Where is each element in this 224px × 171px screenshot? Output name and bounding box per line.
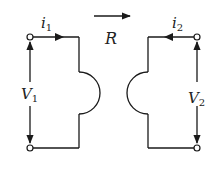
right-top-terminal bbox=[194, 34, 200, 40]
right-port: i2 V2 bbox=[127, 14, 205, 151]
right-current-label: i2 bbox=[172, 14, 183, 33]
left-bottom-terminal bbox=[27, 145, 33, 151]
right-bottom-terminal bbox=[194, 145, 200, 151]
left-semicircle-contact bbox=[79, 72, 100, 114]
right-current-arrowhead bbox=[164, 33, 173, 41]
left-current-label: i1 bbox=[41, 14, 52, 33]
operator: R bbox=[94, 16, 130, 48]
two-port-diagram: i1 V1 i2 V2 R bbox=[0, 0, 224, 171]
left-top-terminal bbox=[27, 34, 33, 40]
right-voltage-label: V2 bbox=[188, 89, 205, 108]
left-voltage-label: V1 bbox=[21, 85, 38, 104]
left-port: i1 V1 bbox=[21, 14, 100, 151]
operator-label: R bbox=[104, 29, 117, 48]
right-semicircle-contact bbox=[127, 72, 148, 114]
left-current-arrowhead bbox=[55, 33, 64, 41]
